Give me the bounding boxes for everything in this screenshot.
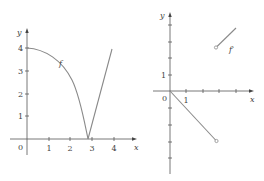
left-y-tick-4: 4	[18, 44, 23, 53]
right-y-arrow-icon	[168, 12, 171, 17]
f-prime-left-segment	[170, 91, 216, 141]
left-x-axis-label: x	[134, 143, 139, 152]
right-x-tick-1: 1	[184, 96, 189, 105]
right-x-axis-label: x	[250, 95, 255, 104]
left-origin-label: 0	[18, 143, 23, 152]
open-circle-upper	[214, 46, 217, 49]
f-prime-label: f′	[228, 45, 234, 54]
left-x-tick-1: 1	[47, 144, 52, 153]
left-y-arrow-icon	[25, 28, 28, 33]
left-x-tick-3: 3	[90, 144, 95, 153]
right-origin-label: 0	[162, 94, 167, 103]
figure: y 4 3 2 1 0 1 2 3 4 x f y 1 0	[0, 0, 264, 181]
right-x-arrow-icon	[249, 89, 254, 92]
right-y-axis-label: y	[159, 11, 165, 20]
left-x-tick-4: 4	[112, 144, 117, 153]
left-y-tick-1: 1	[18, 112, 23, 121]
left-y-tick-2: 2	[18, 90, 23, 99]
f-curve-descending	[27, 48, 88, 139]
left-x-tick-2: 2	[68, 144, 73, 153]
left-y-tick-3: 3	[18, 67, 23, 76]
open-circle-lower	[215, 139, 218, 142]
left-y-axis-label: y	[16, 28, 22, 37]
left-chart-f: y 4 3 2 1 0 1 2 3 4 x f	[10, 28, 139, 155]
right-chart-f-prime: y 1 0 1 x f′	[153, 11, 255, 174]
right-y-tick-1: 1	[161, 71, 166, 80]
left-x-arrow-icon	[132, 137, 137, 140]
f-prime-right-segment	[217, 28, 236, 47]
f-curve-ascending	[88, 49, 112, 139]
